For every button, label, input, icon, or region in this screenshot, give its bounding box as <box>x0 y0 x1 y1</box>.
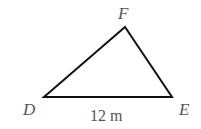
triangle-def <box>44 27 172 97</box>
triangle-diagram: F D E 12 m <box>0 0 201 129</box>
vertex-label-e: E <box>178 100 190 119</box>
vertex-label-d: D <box>22 100 36 119</box>
side-label-de: 12 m <box>90 107 123 124</box>
vertex-label-f: F <box>117 4 129 23</box>
